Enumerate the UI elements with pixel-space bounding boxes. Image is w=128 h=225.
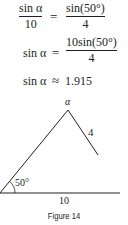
base-label: 10 xyxy=(59,195,69,206)
angle-label: 50° xyxy=(15,177,29,188)
apex-label: α xyxy=(65,96,70,107)
side-label: 4 xyxy=(88,126,94,138)
figure-caption: Figure 14 xyxy=(10,211,119,221)
triangle-figure xyxy=(0,0,128,225)
left-side-line xyxy=(0,110,68,193)
